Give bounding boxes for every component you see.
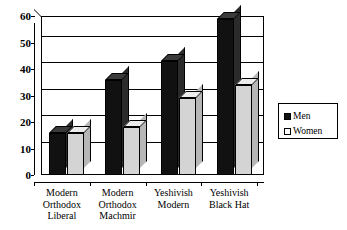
x-axis-line <box>34 182 264 183</box>
x-tick-mark <box>201 182 202 186</box>
x-axis-label-line: Modern <box>142 199 206 211</box>
legend-swatch-icon <box>284 113 291 120</box>
x-axis-label-line: Orthodox <box>86 199 150 211</box>
bar-men-2 <box>161 61 178 175</box>
bar-chart: 0102030405060 ModernOrthodoxLiberalModer… <box>0 0 347 230</box>
y-tick-label: 50 <box>7 38 31 48</box>
bar-women-0 <box>67 133 84 175</box>
bar-women-3 <box>235 85 252 175</box>
bar-men-1 <box>105 80 122 175</box>
bar-women-2 <box>179 98 196 175</box>
plot-floor <box>34 175 257 182</box>
x-axis-label-line: Machmir <box>86 210 150 222</box>
legend: MenWomen <box>278 103 338 139</box>
x-axis-label-line: Yeshivish <box>142 187 206 199</box>
x-axis-label-line: Modern <box>30 187 94 199</box>
plot-left-wall <box>34 23 41 182</box>
x-axis-label: YeshivishModern <box>142 187 206 210</box>
x-axis-label-line: Yeshivish <box>197 187 261 199</box>
legend-swatch-icon <box>284 128 291 135</box>
x-tick-mark <box>34 182 35 186</box>
x-tick-mark <box>146 182 147 186</box>
x-axis-label-line: Liberal <box>30 210 94 222</box>
x-axis-label-line: Black Hat <box>197 199 261 211</box>
y-tick-connector <box>34 9 41 24</box>
y-tick-label: 30 <box>7 91 31 101</box>
x-axis-label-line: Modern <box>86 187 150 199</box>
legend-label: Men <box>293 111 310 121</box>
y-tick-label: 20 <box>7 117 31 127</box>
y-tick-label: 10 <box>7 144 31 154</box>
x-axis-label: ModernOrthodoxMachmir <box>86 187 150 222</box>
legend-label: Women <box>293 126 322 136</box>
bar-men-0 <box>49 133 66 175</box>
y-tick-label: 60 <box>7 11 31 21</box>
bar-side-face <box>252 71 259 168</box>
bar-men-3 <box>217 19 234 175</box>
y-tick-label: 0 <box>7 170 31 180</box>
legend-item: Women <box>284 125 322 137</box>
x-tick-mark <box>90 182 91 186</box>
y-tick-label: 40 <box>7 64 31 74</box>
bar-women-1 <box>123 127 140 175</box>
x-axis-label: YeshivishBlack Hat <box>197 187 261 210</box>
x-axis-label: ModernOrthodoxLiberal <box>30 187 94 222</box>
x-tick-mark <box>257 182 258 186</box>
legend-item: Men <box>284 110 310 122</box>
x-axis-label-line: Orthodox <box>30 199 94 211</box>
